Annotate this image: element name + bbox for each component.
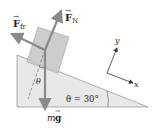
friction-label: F fr → <box>13 13 27 31</box>
incline-diagram: F fr → F N → m g → θ θ = 30° x y <box>0 0 153 128</box>
x-axis-label: x <box>134 80 139 89</box>
normal-label: F N → <box>65 7 78 25</box>
svg-text:→: → <box>65 7 71 15</box>
svg-text:N: N <box>72 17 78 25</box>
y-axis-label: y <box>114 36 120 45</box>
incline-angle-label: θ = 30° <box>66 94 99 104</box>
weight-label: m g → <box>47 107 62 123</box>
svg-text:g: g <box>55 113 62 123</box>
x-axis <box>107 73 133 83</box>
theta-label-block: θ <box>36 77 41 86</box>
svg-text:→: → <box>55 107 60 114</box>
svg-text:→: → <box>13 13 19 21</box>
y-axis <box>107 48 117 73</box>
svg-text:fr: fr <box>20 23 27 31</box>
